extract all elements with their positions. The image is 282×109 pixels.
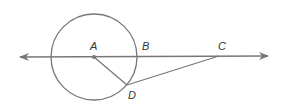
- label-c: C: [218, 40, 226, 52]
- label-d: D: [128, 89, 136, 101]
- label-a: A: [89, 40, 97, 52]
- line-abc: [20, 56, 268, 57]
- center-point-a: [92, 55, 96, 59]
- segment-ad: [94, 57, 127, 85]
- label-b: B: [142, 40, 149, 52]
- geometry-diagram: A B C D: [0, 0, 282, 109]
- segment-dc: [127, 56, 219, 85]
